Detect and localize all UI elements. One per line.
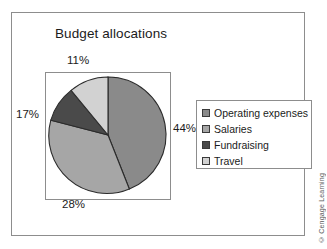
legend-item-operating-expenses[interactable]: Operating expenses	[202, 105, 307, 121]
pie-label-operating-expenses: 44%	[173, 122, 196, 134]
page-title: Budget allocations	[55, 26, 167, 41]
legend-item-fundraising[interactable]: Fundraising	[202, 137, 307, 153]
legend-item-travel[interactable]: Travel	[202, 153, 307, 169]
legend-swatch-icon	[202, 125, 210, 133]
legend-item-label: Fundraising	[214, 140, 269, 151]
pie-chart	[45, 72, 171, 200]
legend-swatch-icon	[202, 141, 210, 149]
legend-swatch-icon	[202, 109, 210, 117]
legend-item-label: Salaries	[214, 124, 252, 135]
legend: Operating expenses Salaries Fundraising …	[196, 100, 312, 169]
copyright-credit: © Cengage Learning	[318, 173, 325, 243]
pie-label-salaries: 28%	[62, 198, 85, 210]
legend-item-salaries[interactable]: Salaries	[202, 121, 307, 137]
pie-label-travel: 11%	[67, 54, 89, 66]
legend-item-label: Travel	[214, 156, 243, 167]
legend-item-label: Operating expenses	[214, 108, 308, 119]
figure-container: Budget allocations 11% 17% 44% 28% Opera…	[0, 0, 327, 249]
pie-label-fundraising: 17%	[16, 108, 39, 120]
legend-swatch-icon	[202, 157, 210, 165]
pie-chart-svg	[37, 69, 179, 203]
